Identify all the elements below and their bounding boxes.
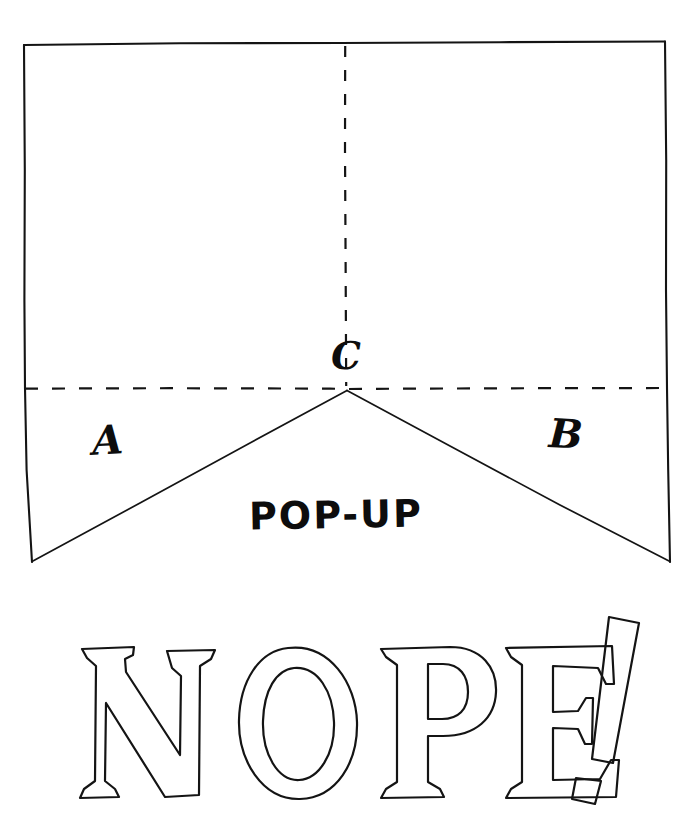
nope-letter-exclamation-bar xyxy=(592,617,639,763)
sheet-left-edge xyxy=(24,45,32,562)
card-sheet-outline xyxy=(24,42,670,563)
apex-label-c: C xyxy=(330,336,362,375)
region-label-a: A xyxy=(91,419,124,461)
pop-up-text-label: POP-UP xyxy=(249,494,423,535)
horizontal-fold-line xyxy=(25,388,667,389)
nope-caption-art xyxy=(80,617,639,804)
nope-letter-o-outer xyxy=(239,648,357,799)
nope-letter-n xyxy=(80,647,215,798)
nope-letter-p-bowl-inner xyxy=(428,664,468,719)
nope-letter-exclamation-dot xyxy=(572,778,601,804)
nope-letter-o-inner xyxy=(263,668,334,780)
nope-letter-p xyxy=(381,647,496,798)
diagram-canvas: A B C POP-UP xyxy=(0,0,700,832)
region-label-b: B xyxy=(548,413,584,455)
sheet-top-edge xyxy=(24,42,665,46)
sheet-right-edge xyxy=(665,42,670,563)
